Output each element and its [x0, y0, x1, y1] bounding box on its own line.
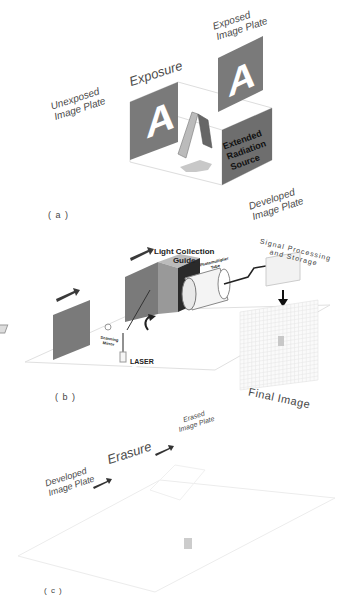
panel-b-label: ( b )	[55, 392, 76, 402]
panel-a-label: ( a )	[48, 210, 69, 220]
panel-c-label: ( c )	[44, 586, 63, 595]
unexposed-plate	[53, 300, 90, 360]
arrow-icon	[93, 478, 112, 489]
erasure-lamp	[184, 538, 192, 549]
label-line: Light Collection	[154, 247, 214, 256]
scanning-plate	[125, 262, 158, 322]
arrow-icon	[130, 247, 154, 261]
arrow-icon	[155, 445, 174, 456]
scanning-mirror	[0, 325, 8, 333]
light-collection-guide	[158, 262, 178, 314]
laser-device	[120, 352, 126, 362]
svg-text:A: A	[130, 331, 155, 378]
svg-text:A: A	[62, 403, 85, 447]
panel-b-illustration: A A	[0, 247, 330, 447]
laser-label: LASER	[130, 358, 154, 365]
arrow-icon	[56, 288, 80, 302]
panel-c-illustration	[18, 445, 335, 592]
figure-canvas: A A A A	[0, 0, 356, 614]
